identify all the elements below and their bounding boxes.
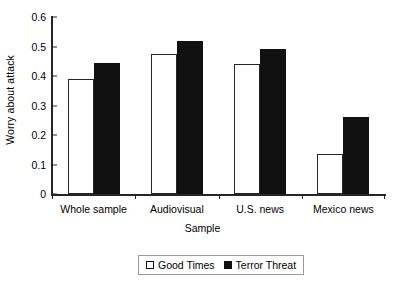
y-tick-label: 0.2 — [31, 129, 46, 141]
x-tick-mark — [135, 194, 136, 199]
open-square-icon — [146, 261, 154, 269]
y-tick-mark — [52, 17, 57, 18]
bar-terror-threat — [177, 41, 203, 194]
x-category-label: Whole sample — [60, 203, 127, 215]
bar-good-times — [317, 154, 343, 194]
x-tick-mark — [384, 194, 385, 199]
y-tick-mark — [52, 135, 57, 136]
x-category-label: U.S. news — [236, 203, 284, 215]
y-tick-mark — [52, 164, 57, 165]
y-axis-title-label: Worry about attack — [4, 55, 16, 145]
y-tick-label: 0.1 — [31, 159, 46, 171]
y-tick-mark — [52, 76, 57, 77]
y-tick-label: 0.4 — [31, 70, 46, 82]
bar-terror-threat — [260, 49, 286, 194]
x-tick-mark — [302, 194, 303, 199]
x-tick-mark — [219, 194, 220, 199]
bar-group — [68, 17, 120, 194]
bar-chart-figure: Worry about attack 00.10.20.30.40.50.6 W… — [0, 0, 405, 285]
bar-group — [151, 17, 203, 194]
y-tick-label: 0 — [40, 188, 46, 200]
x-axis-title-label: Sample — [185, 222, 221, 234]
bar-terror-threat — [94, 63, 120, 194]
bar-terror-threat — [343, 117, 369, 194]
legend-item[interactable]: Terror Threat — [224, 259, 297, 271]
legend-item[interactable]: Good Times — [146, 259, 215, 271]
bar-good-times — [234, 64, 260, 194]
y-tick-label: 0.3 — [31, 100, 46, 112]
y-tick-label: 0.5 — [31, 41, 46, 53]
filled-square-icon — [224, 261, 232, 269]
bar-good-times — [68, 79, 94, 194]
y-tick-mark — [52, 46, 57, 47]
y-tick-mark — [52, 105, 57, 106]
chart-legend: Good TimesTerror Threat — [138, 255, 304, 275]
plot-area: 00.10.20.30.40.50.6 Whole sampleAudiovis… — [52, 17, 385, 194]
bar-good-times — [151, 54, 177, 194]
x-tick-mark — [52, 194, 53, 199]
y-axis-title: Worry about attack — [0, 0, 20, 200]
x-axis-title: Sample — [0, 222, 405, 234]
x-category-label: Mexico news — [313, 203, 374, 215]
x-category-label: Audiovisual — [150, 203, 204, 215]
y-tick-label: 0.6 — [31, 11, 46, 23]
legend-item-label: Good Times — [158, 259, 215, 271]
bar-group — [317, 17, 369, 194]
bar-group — [234, 17, 286, 194]
legend-item-label: Terror Threat — [236, 259, 297, 271]
